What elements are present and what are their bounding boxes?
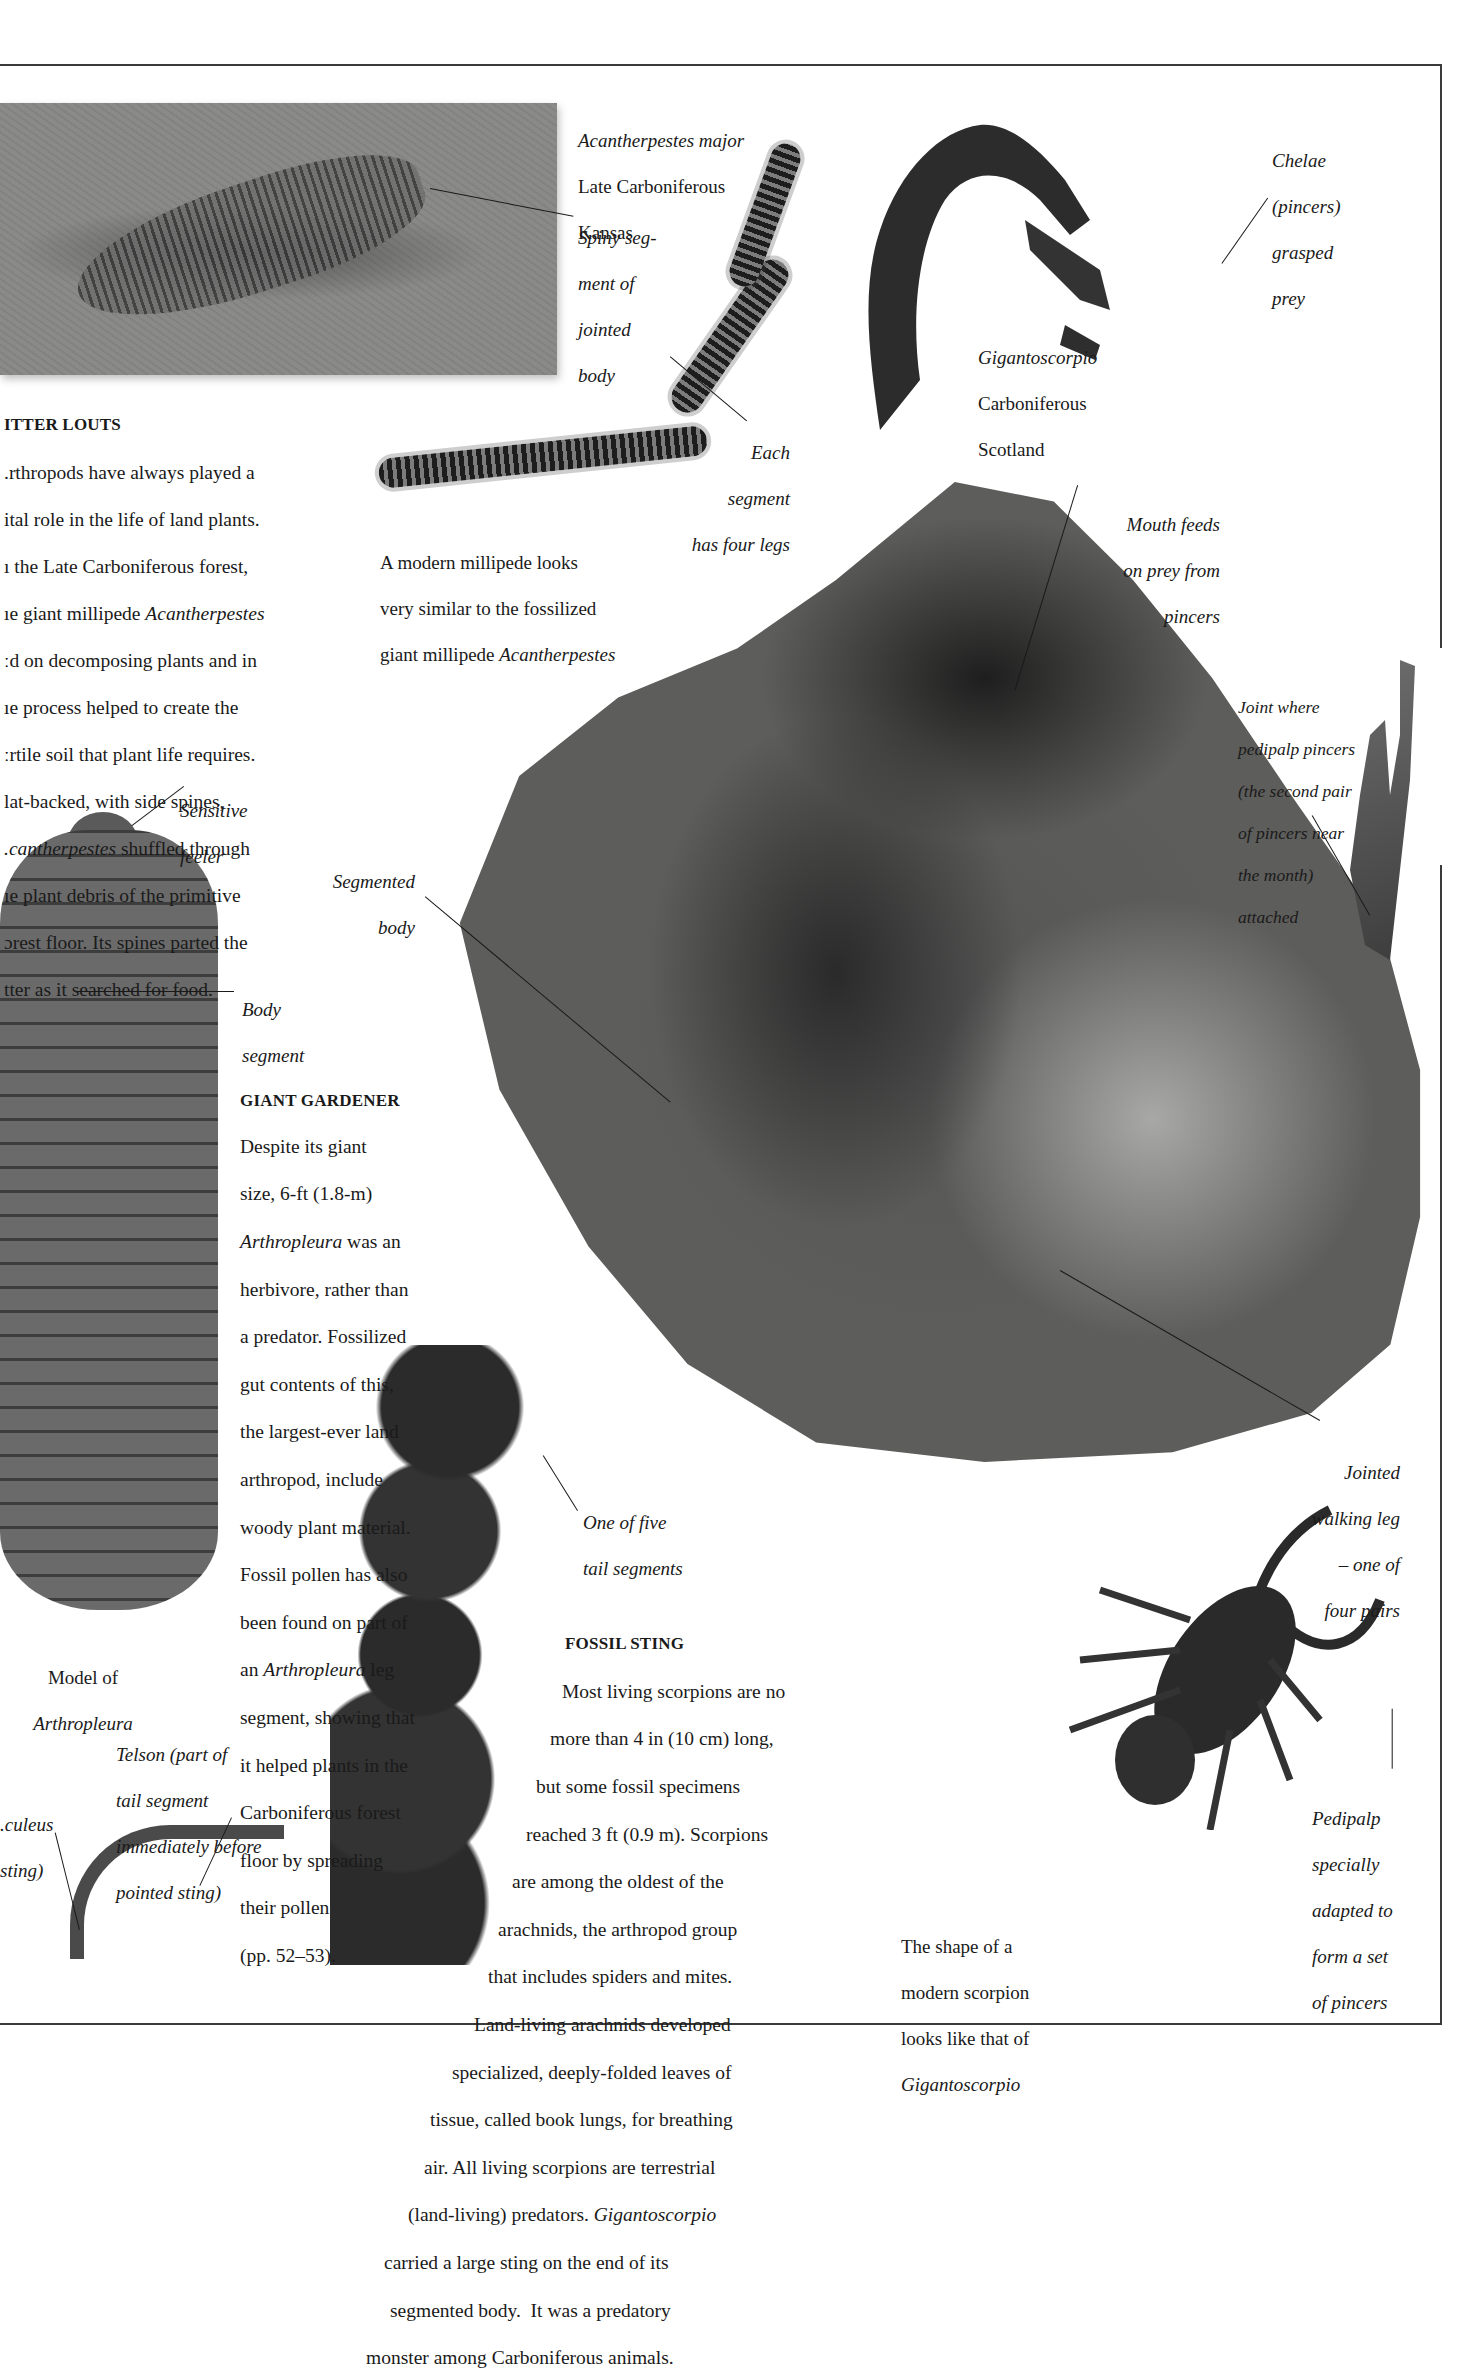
species-name: Acantherpestes major xyxy=(578,129,744,152)
page-frame-right-upper xyxy=(1440,64,1442,648)
label-spiny-segment: Spiny seg- ment of jointed body xyxy=(578,203,657,410)
text-line: ıe giant millipede Acantherpestes xyxy=(4,602,264,626)
leader-chelae xyxy=(1221,198,1268,264)
fossil-millipede-impression xyxy=(62,130,438,346)
label-chelae: Chelae (pincers) grasped prey xyxy=(1272,126,1341,333)
text-line: ıe process helped to create the xyxy=(4,696,264,720)
text-line: ɔrest floor. Its spines parted the xyxy=(4,931,264,955)
leader-aculeus xyxy=(54,1833,80,1930)
label-body-segment: Body segment xyxy=(242,975,304,1090)
label-pedipalp: Pedipalp specially adapted to form a set… xyxy=(1312,1784,1393,2037)
text-line: tter as it searched for food. xyxy=(4,978,264,1002)
fossil-sting-heading: FOSSIL STING xyxy=(565,1632,684,1655)
label-each-segment: Each segment has four legs xyxy=(680,418,790,579)
gigantoscorpio-caption: Gigantoscorpio Carboniferous Scotland xyxy=(978,323,1097,484)
leader-one-of-five xyxy=(542,1455,578,1511)
period: Late Carboniferous xyxy=(578,175,744,198)
leader-pedipalp xyxy=(1391,1709,1392,1769)
text-line: ital role in the life of land plants. xyxy=(4,508,264,532)
fossil-sting-body: Most living scorpions are no more than 4… xyxy=(380,1656,840,2372)
litter-louts-heading: ITTER LOUTS xyxy=(4,413,121,436)
text-line: ːd on decomposing plants and in xyxy=(4,649,264,673)
label-aculeus: .culeus sting) xyxy=(0,1790,53,1905)
label-one-of-five: One of five tail segments xyxy=(583,1488,683,1603)
giant-gardener-heading: GIANT GARDENER xyxy=(240,1089,400,1112)
label-mouth-feeds: Mouth feeds on prey from pincers xyxy=(1070,490,1220,651)
label-joint-where: Joint where pedipalp pincers (the second… xyxy=(1238,676,1355,949)
label-sensitive-feeler: Sensitive feeler xyxy=(180,776,248,891)
text-line: ı the Late Carboniferous forest, xyxy=(4,555,264,579)
text-line: ːrtile soil that plant life requires. xyxy=(4,743,264,767)
modern-millipede-tail xyxy=(377,425,708,489)
label-segmented-body: Segmented body xyxy=(310,847,415,962)
modern-scorpion-caption: The shape of a modern scorpion looks lik… xyxy=(901,1912,1029,2119)
litter-louts-body: .rthropods have always played a ital rol… xyxy=(4,437,264,1025)
label-jointed-walking-leg: Jointed walking leg – one of four pairs xyxy=(1280,1438,1400,1645)
label-telson: Telson (part of tail segment immediately… xyxy=(116,1720,261,1927)
page-frame-top xyxy=(0,64,1442,66)
page-frame-right-lower xyxy=(1440,865,1442,2025)
text-line: .rthropods have always played a xyxy=(4,461,264,485)
modern-millipede-caption: A modern millipede looks very similar to… xyxy=(380,528,615,689)
fossil-slab-acantherpestes xyxy=(0,103,557,375)
